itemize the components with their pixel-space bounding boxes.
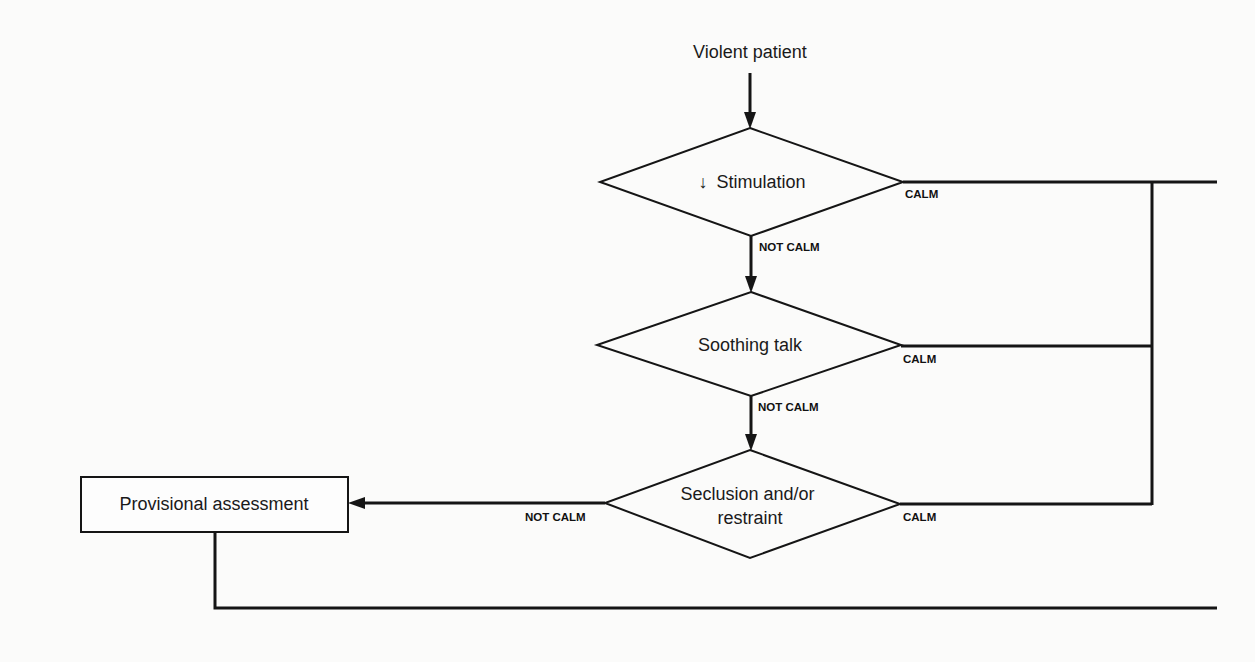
soothing-talk-label: Soothing talk: [698, 335, 803, 355]
stimulation-label-group: ↓ Stimulation: [698, 172, 805, 192]
calm-label: CALM: [903, 353, 936, 365]
start-label: Violent patient: [693, 42, 807, 62]
down-arrow-icon: ↓: [698, 172, 707, 192]
edge-seclusion-not-calm: NOT CALM: [348, 497, 605, 523]
seclusion-label: Seclusion and/or restraint: [680, 484, 819, 528]
arrowhead-down-icon: [745, 276, 757, 293]
node-provisional-assessment: Provisional assessment: [81, 477, 348, 532]
arrowhead-down-icon: [744, 112, 756, 129]
edge-provisional-exit: [215, 532, 1217, 608]
edge-seclusion-calm: CALM: [900, 504, 1152, 523]
provisional-assessment-label: Provisional assessment: [119, 494, 308, 514]
arrowhead-left-icon: [348, 497, 365, 509]
edge-stimulation-calm: CALM: [903, 182, 1217, 200]
calm-label: CALM: [905, 188, 938, 200]
flowchart-canvas: Violent patient ↓ Stimulation CALM NOT C…: [0, 0, 1255, 662]
not-calm-label: NOT CALM: [525, 511, 586, 523]
node-stimulation: ↓ Stimulation: [600, 128, 903, 236]
edge-soothing-not-calm: NOT CALM: [745, 396, 819, 451]
edge-stimulation-not-calm: NOT CALM: [745, 236, 820, 293]
arrowhead-down-icon: [745, 434, 757, 451]
seclusion-label-line1: Seclusion and/or: [680, 484, 814, 504]
node-soothing-talk: Soothing talk: [597, 292, 901, 396]
edge-soothing-calm: CALM: [901, 346, 1152, 365]
seclusion-label-line2: restraint: [717, 508, 782, 528]
edge-start-to-stimulation: [744, 73, 756, 129]
stimulation-label: Stimulation: [716, 172, 805, 192]
decision-diamond: [605, 450, 900, 558]
node-seclusion-restraint: Seclusion and/or restraint: [605, 450, 900, 558]
not-calm-label: NOT CALM: [758, 401, 819, 413]
not-calm-label: NOT CALM: [759, 241, 820, 253]
calm-label: CALM: [903, 511, 936, 523]
